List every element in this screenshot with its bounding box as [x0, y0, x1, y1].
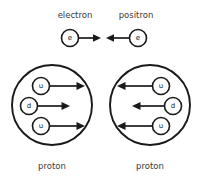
left-proton-quark-1-symbol: d	[27, 102, 31, 110]
positron-particle: e	[106, 30, 147, 47]
electron-particle: e	[62, 30, 102, 47]
diagram-canvas: electron positron e e u	[0, 0, 201, 181]
left-proton-quark-0-symbol: u	[39, 82, 43, 90]
positron-label: positron	[119, 10, 154, 20]
electron-label: electron	[58, 10, 93, 20]
electron-momentum-arrow-head	[93, 34, 101, 42]
particle-collision-diagram: electron positron e e u	[0, 0, 201, 181]
right-proton-caption: proton	[136, 161, 164, 171]
positron-symbol: e	[136, 34, 140, 42]
right-proton-quark-0-symbol: u	[159, 82, 163, 90]
right-proton: u d u	[110, 65, 190, 145]
left-proton-quark-2-symbol: u	[39, 122, 43, 130]
electron-symbol: e	[68, 34, 72, 42]
left-proton-caption: proton	[38, 161, 66, 171]
positron-momentum-arrow-head	[106, 34, 114, 42]
left-proton: u d u	[12, 65, 92, 145]
right-proton-quark-2-symbol: u	[159, 122, 163, 130]
right-proton-quark-1-symbol: d	[171, 102, 175, 110]
